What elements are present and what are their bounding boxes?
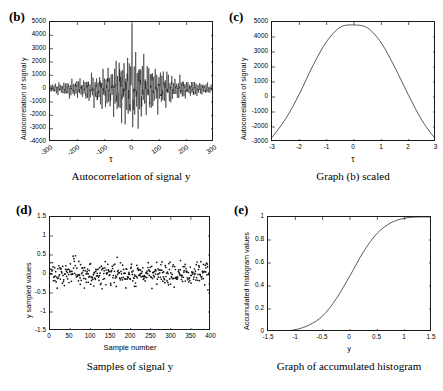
sample-point xyxy=(144,280,146,282)
sample-point xyxy=(169,269,171,271)
sample-point xyxy=(192,272,194,274)
sample-point xyxy=(170,272,172,274)
sample-point xyxy=(147,262,149,264)
panel-c-xtick-5: 2 xyxy=(402,144,414,150)
panel-c-xtick-2: -1 xyxy=(321,144,333,150)
sample-point xyxy=(196,277,198,279)
panel-d-xtick-4: 200 xyxy=(123,333,137,339)
sample-point xyxy=(184,266,186,268)
sample-point xyxy=(185,268,187,270)
panel-b-xtick-4: 100 xyxy=(143,144,163,161)
panel-b-plot-area xyxy=(49,21,213,141)
panel-b-ytick-2: 3000 xyxy=(22,45,46,51)
sample-point xyxy=(73,267,75,269)
sample-point xyxy=(172,266,174,268)
sample-point xyxy=(99,267,101,269)
sample-point xyxy=(117,274,119,276)
sample-point xyxy=(177,278,179,280)
sample-point xyxy=(195,264,197,266)
sample-point xyxy=(194,272,196,274)
sample-point xyxy=(179,273,181,275)
sample-point xyxy=(59,274,61,276)
sample-point xyxy=(148,275,150,277)
panel-b-xlabel: τ xyxy=(91,155,131,163)
panel-e-xtick-6: 1.5 xyxy=(423,334,439,340)
sample-point xyxy=(146,270,148,272)
sample-point xyxy=(68,274,70,276)
sample-point xyxy=(51,273,53,275)
sample-point xyxy=(71,280,73,282)
sample-point xyxy=(84,270,86,272)
panel-c-ytick-4: 1000 xyxy=(244,78,268,84)
panel-e-ytick-2: 0.6 xyxy=(248,259,264,265)
panel-c-plot-area xyxy=(271,21,435,141)
sample-point xyxy=(106,272,108,274)
panel-b-ytick-6: -1000 xyxy=(22,98,46,104)
sample-point xyxy=(75,255,77,257)
sample-point xyxy=(128,276,130,278)
sample-point xyxy=(71,270,73,272)
panel-e-xtick-2: -0.5 xyxy=(314,334,330,340)
sample-point xyxy=(195,270,197,272)
sample-point xyxy=(156,261,158,263)
sample-point xyxy=(186,271,188,273)
sample-point xyxy=(55,275,57,277)
sample-point xyxy=(143,278,145,280)
panel-d-ytick-5: -1 xyxy=(28,308,46,314)
sample-point xyxy=(123,269,125,271)
sample-point xyxy=(188,272,190,274)
sample-point xyxy=(122,279,124,281)
sample-point xyxy=(161,269,163,271)
sample-point xyxy=(54,267,56,269)
sample-point xyxy=(204,284,206,286)
sample-point xyxy=(151,288,153,290)
sample-point xyxy=(126,268,128,270)
sample-point xyxy=(52,269,54,271)
sample-point xyxy=(89,276,91,278)
sample-point xyxy=(119,279,121,281)
sample-point xyxy=(98,276,100,278)
sample-point xyxy=(84,287,86,289)
panel-b-autocorrelation-trace xyxy=(50,25,213,129)
sample-point xyxy=(90,263,92,265)
panel-d-ytick-1: 1 xyxy=(28,232,46,238)
panel-e-tag: (e) xyxy=(234,203,248,216)
sample-point xyxy=(105,269,107,271)
sample-point xyxy=(198,266,200,268)
sample-point xyxy=(65,268,67,270)
sample-point xyxy=(117,269,119,271)
sample-point xyxy=(120,271,122,273)
sample-point xyxy=(129,278,131,280)
sample-point xyxy=(113,275,115,277)
sample-point xyxy=(57,277,59,279)
sample-point xyxy=(194,268,196,270)
sample-point xyxy=(152,278,154,280)
sample-point xyxy=(161,261,163,263)
panel-c-tickmarks xyxy=(272,22,435,141)
panel-b-ytick-4: 1000 xyxy=(22,71,46,77)
sample-point xyxy=(116,276,118,278)
sample-point xyxy=(88,270,90,272)
panel-e-plot-area xyxy=(267,216,431,331)
sample-point xyxy=(51,262,53,264)
sample-point xyxy=(82,275,84,277)
sample-point xyxy=(110,284,112,286)
figure-root: (b) Autocorrelation of signal y 5000 400… xyxy=(0,0,443,391)
panel-c-ytick-1: 4000 xyxy=(244,33,268,39)
sample-point xyxy=(203,270,205,272)
sample-point xyxy=(53,280,55,282)
sample-point xyxy=(74,265,76,267)
panel-d-svg xyxy=(50,217,210,330)
panel-e-xlabel: y xyxy=(329,345,369,353)
sample-point xyxy=(81,272,83,274)
sample-point xyxy=(78,261,80,263)
sample-point xyxy=(190,282,192,284)
panel-c-ytick-2: 3000 xyxy=(244,48,268,54)
panel-d-plot-area xyxy=(49,216,210,330)
sample-point xyxy=(50,262,51,264)
sample-point xyxy=(107,263,109,265)
sample-point xyxy=(140,269,142,271)
sample-point xyxy=(136,275,138,277)
panel-b-xtick-1: -200 xyxy=(61,144,81,161)
panel-d-xtick-0: 0 xyxy=(43,333,55,339)
